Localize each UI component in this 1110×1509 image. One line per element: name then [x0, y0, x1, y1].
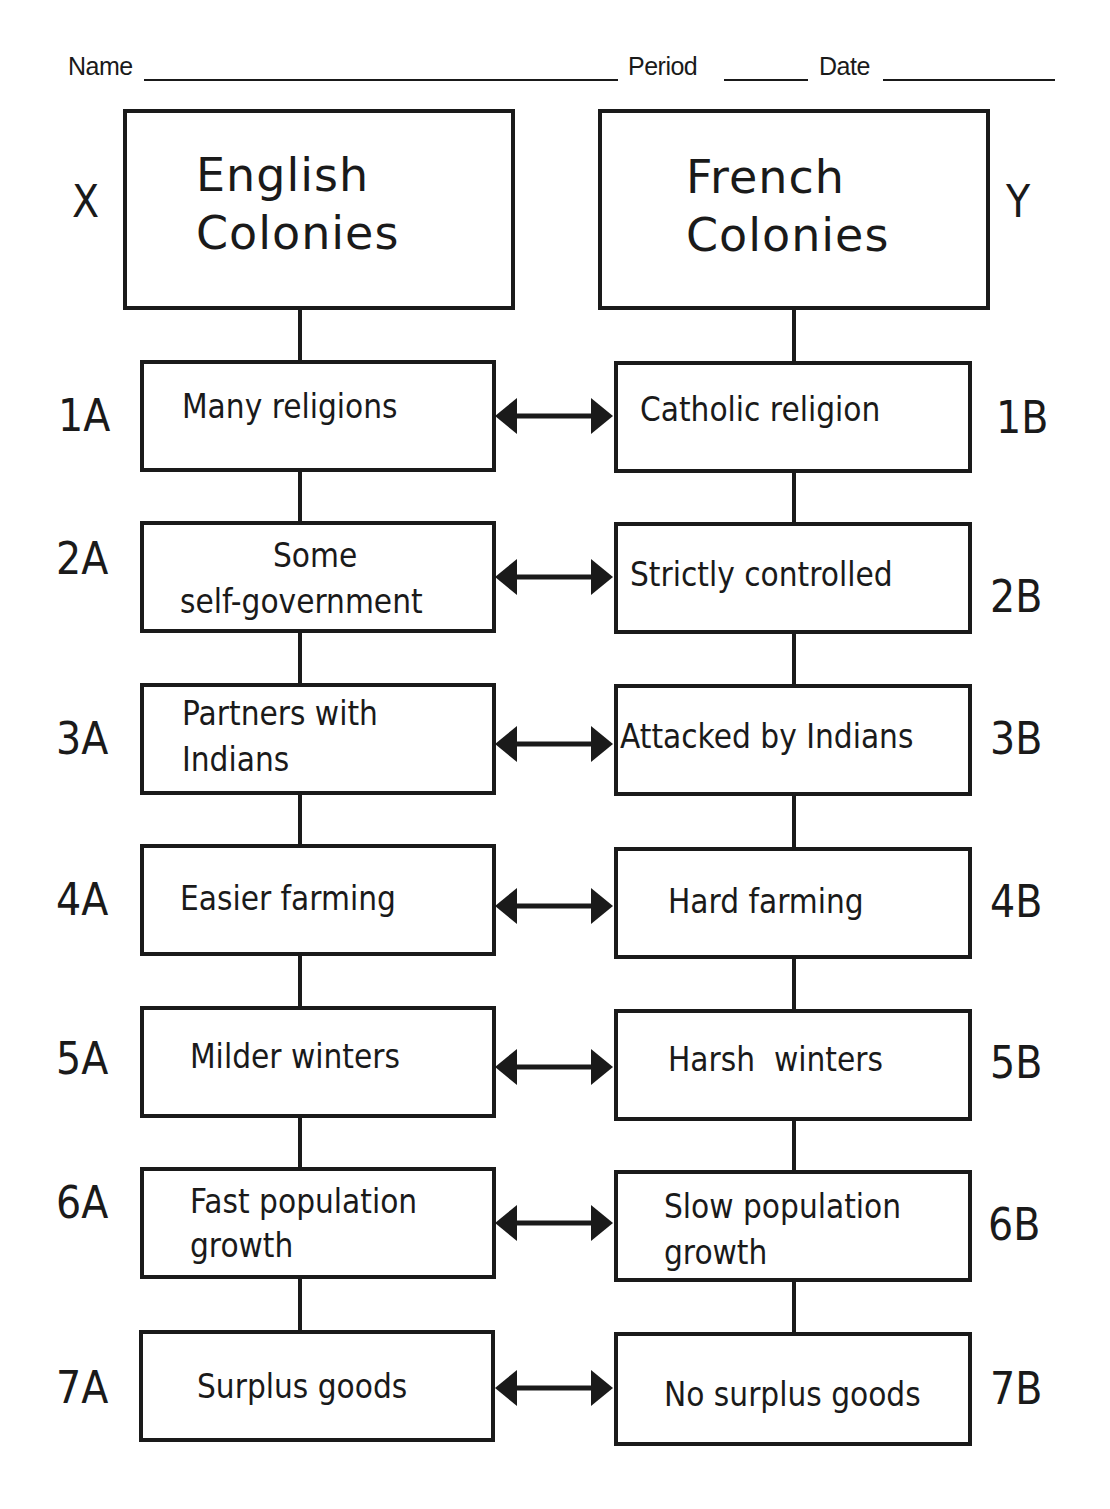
trait-text-line1: Catholic religion [640, 387, 880, 433]
french-title-line2: Colonies [686, 206, 889, 264]
row-label-left: 1A [58, 391, 110, 441]
french-trait-box: Slow population growth [614, 1170, 972, 1282]
trait-text-line1: Hard farming [668, 879, 864, 925]
double-arrow-icon [493, 557, 615, 597]
date-label: Date [819, 52, 870, 81]
english-title-line1: English [196, 146, 369, 204]
french-colonies-box: French Colonies [598, 109, 990, 310]
row-label-right: 1B [996, 393, 1048, 443]
french-trait-box: Strictly controlled [614, 522, 972, 634]
period-label: Period [628, 52, 697, 81]
row-label-left: 4A [56, 875, 108, 925]
trait-text-line1: Partners with [182, 691, 378, 737]
english-trait-box: Many religions [140, 360, 496, 472]
trait-text-line1: Milder winters [190, 1034, 400, 1080]
trait-text-line1: Surplus goods [197, 1364, 407, 1410]
row-label-right: 3B [990, 714, 1042, 764]
trait-text-line1: No surplus goods [664, 1372, 921, 1418]
french-trait-box: Attacked by Indians [614, 684, 972, 796]
row-label-right: 4B [990, 877, 1042, 927]
french-title-line1: French [686, 148, 845, 206]
english-colonies-box: English Colonies [123, 109, 515, 310]
row-label-left: 5A [56, 1034, 108, 1084]
trait-text-line1: Easier farming [180, 876, 396, 922]
row-label-right: 5B [990, 1038, 1042, 1088]
double-arrow-icon [493, 1368, 615, 1408]
trait-text-line2: Indians [182, 737, 289, 783]
double-arrow-icon [493, 886, 615, 926]
trait-text-line1: Harsh winters [668, 1037, 883, 1083]
row-label-left: 3A [56, 714, 108, 764]
row-label-right: 2B [990, 572, 1042, 622]
column-marker-x: X [72, 177, 99, 227]
english-trait-box: Surplus goods [139, 1330, 495, 1442]
trait-text-line1: Slow population [664, 1184, 901, 1230]
french-trait-box: Harsh winters [614, 1009, 972, 1121]
name-field[interactable] [144, 79, 618, 81]
double-arrow-icon [493, 396, 615, 436]
double-arrow-icon [493, 724, 615, 764]
trait-text-line1: Many religions [182, 384, 398, 430]
french-trait-box: Hard farming [614, 847, 972, 959]
double-arrow-icon [493, 1203, 615, 1243]
name-label: Name [68, 52, 133, 81]
row-label-right: 7B [990, 1364, 1042, 1414]
double-arrow-icon [493, 1047, 615, 1087]
trait-text-line1: Fast population [190, 1179, 417, 1225]
trait-text-line1: Some [273, 533, 357, 579]
row-label-left: 7A [56, 1363, 108, 1413]
row-label-left: 2A [56, 534, 108, 584]
french-trait-box: Catholic religion [614, 361, 972, 473]
period-field[interactable] [724, 79, 808, 81]
english-trait-box: Some self-government [140, 521, 496, 633]
date-field[interactable] [883, 79, 1055, 81]
column-marker-y: Y [1006, 177, 1030, 227]
english-trait-box: Milder winters [140, 1006, 496, 1118]
trait-text-line2: self-government [180, 579, 423, 625]
trait-text-line2: growth [190, 1223, 293, 1269]
english-title-line2: Colonies [196, 204, 399, 262]
french-trait-box: No surplus goods [614, 1332, 972, 1446]
trait-text-line1: Strictly controlled [630, 552, 893, 598]
trait-text-line2: growth [664, 1230, 767, 1276]
english-trait-box: Fast population growth [140, 1167, 496, 1279]
english-trait-box: Easier farming [140, 844, 496, 956]
trait-text-line1: Attacked by Indians [620, 714, 913, 760]
row-label-right: 6B [988, 1200, 1040, 1250]
english-trait-box: Partners with Indians [140, 683, 496, 795]
row-label-left: 6A [56, 1178, 108, 1228]
